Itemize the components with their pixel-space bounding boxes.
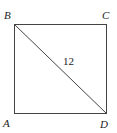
vertex-label-B: B — [4, 9, 11, 21]
vertex-label-A: A — [2, 117, 10, 129]
square-diagram: B C A D 12 — [0, 0, 117, 133]
diagonal-length-label: 12 — [63, 55, 74, 67]
vertex-label-C: C — [102, 9, 110, 21]
diagonal-BD — [15, 25, 107, 114]
vertex-label-D: D — [99, 118, 108, 130]
